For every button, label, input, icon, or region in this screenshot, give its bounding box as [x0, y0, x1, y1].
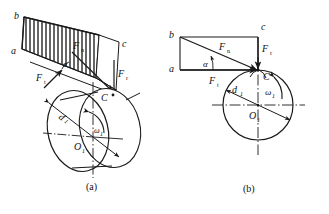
svg-text:1: 1 [240, 91, 243, 97]
svg-text:n: n [227, 48, 230, 54]
label-b-b: b [169, 29, 174, 40]
label-a-b: a [169, 63, 174, 74]
svg-text:O: O [74, 141, 81, 152]
svg-text:1: 1 [82, 148, 85, 154]
gear-force-figure: b a c F n F t F r α C d 1 ω 1 O 1 (a) [0, 0, 329, 214]
label-b-a: b [14, 10, 19, 21]
figure-canvas: b a c F n F t F r α C d 1 ω 1 O 1 (a) [0, 0, 329, 214]
caption-a: (a) [86, 181, 97, 193]
svg-text:F: F [218, 41, 226, 52]
svg-text:F: F [261, 43, 269, 54]
svg-text:O: O [249, 110, 256, 121]
center-point-o1-b [257, 104, 259, 106]
svg-text:ω: ω [265, 87, 271, 97]
svg-text:F: F [72, 40, 80, 51]
svg-text:n: n [81, 47, 84, 53]
svg-text:r: r [126, 75, 128, 81]
svg-text:F: F [208, 75, 216, 86]
svg-text:F: F [35, 72, 43, 83]
svg-text:F: F [117, 68, 125, 79]
label-c-b: c [261, 21, 266, 32]
svg-text:1: 1 [272, 93, 275, 99]
svg-text:1: 1 [257, 117, 260, 123]
contact-point-c-b [257, 69, 260, 72]
contact-point-c-a [112, 94, 115, 97]
label-c-a: c [122, 38, 127, 49]
svg-text:r: r [270, 50, 272, 56]
label-c-point-b: C [263, 71, 270, 82]
caption-b: (b) [243, 183, 255, 195]
label-c-point-a: C [101, 92, 108, 103]
label-alpha-b: α [203, 59, 208, 69]
svg-text:1: 1 [100, 131, 103, 137]
label-a-a: a [11, 45, 16, 56]
